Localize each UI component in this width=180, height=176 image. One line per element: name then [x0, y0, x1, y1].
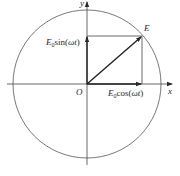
- horizontal-component-label: E0cos(ωt): [107, 88, 143, 99]
- vertical-component-label: E0sin(ωt): [45, 37, 80, 48]
- origin-label: O: [76, 87, 83, 97]
- phasor-diagram: y x O E E0sin(ωt) E0cos(ωt): [0, 0, 180, 176]
- x-axis-label: x: [167, 86, 172, 96]
- vector-e-arrow: [87, 37, 141, 84]
- y-axis-label: y: [79, 0, 84, 8]
- point-e-label: E: [143, 23, 150, 33]
